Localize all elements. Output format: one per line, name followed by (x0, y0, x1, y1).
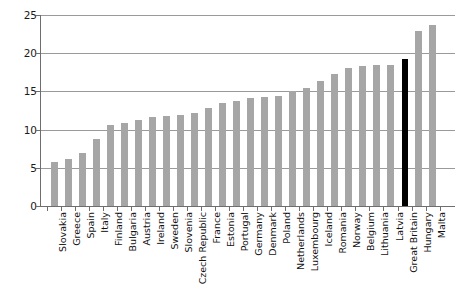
y-tick-label-15: 15 (3, 86, 37, 96)
bar-norway (345, 68, 352, 206)
x-tick-mark-22 (369, 207, 370, 211)
y-axis-ticks: 0510152025 (0, 15, 37, 206)
bar-lithuania (373, 65, 380, 206)
bar-netherlands (289, 91, 296, 206)
bar-hungary (415, 31, 422, 206)
x-label-estonia: Estonia (226, 212, 236, 247)
x-tick-mark-24 (398, 207, 399, 211)
x-label-lithuania: Lithuania (380, 212, 390, 256)
bar-luxembourg (303, 88, 310, 206)
bar-spain (79, 153, 86, 206)
x-tick-mark-1 (75, 207, 76, 211)
x-label-france: France (212, 212, 222, 244)
bar-greece (65, 159, 72, 206)
x-label-greece: Greece (72, 212, 82, 246)
x-label-denmark: Denmark (268, 212, 278, 256)
x-label-spain: Spain (86, 212, 96, 239)
x-tick-mark-25 (412, 207, 413, 211)
x-label-slovakia: Slovakia (58, 212, 68, 252)
bar-poland (275, 96, 282, 206)
x-label-portugal: Portugal (240, 212, 250, 251)
x-tick-mark-11 (215, 207, 216, 211)
x-label-czech-republic: Czech Republic (198, 212, 208, 284)
x-label-hungary: Hungary (423, 212, 433, 253)
bar-series (40, 15, 455, 206)
x-tick-mark-0 (61, 207, 62, 211)
bar-italy (93, 139, 100, 206)
x-tick-mark-14 (257, 207, 258, 211)
x-tick-mark-19 (327, 207, 328, 211)
x-label-norway: Norway (352, 212, 362, 248)
bar-denmark (261, 97, 268, 206)
bar-sweden (163, 116, 170, 206)
x-tick-mark-21 (355, 207, 356, 211)
y-tick-label-5: 5 (3, 163, 37, 173)
x-label-iceland: Iceland (324, 212, 334, 246)
x-tick-mark-6 (145, 207, 146, 211)
x-label-austria: Austria (142, 212, 152, 246)
x-label-romania: Romania (338, 212, 348, 254)
bar-romania (331, 74, 338, 206)
bar-portugal (233, 101, 240, 206)
x-label-great-britain: Great Britain (409, 212, 419, 273)
bar-estonia (219, 103, 226, 206)
x-tick-mark-7 (159, 207, 160, 211)
bar-bulgaria (121, 123, 128, 206)
x-tick-mark-9 (187, 207, 188, 211)
x-tick-mark-13 (243, 207, 244, 211)
x-label-ireland: Ireland (156, 212, 166, 245)
bar-chart: 0510152025 SlovakiaGreeceSpainItalyFinla… (0, 0, 460, 304)
x-label-poland: Poland (282, 212, 292, 244)
bar-great-britain (402, 59, 408, 206)
bar-germany (247, 98, 254, 206)
x-tick-mark-origin (47, 207, 48, 211)
bar-france (205, 108, 212, 206)
bar-ireland (149, 117, 156, 206)
x-tick-mark-17 (299, 207, 300, 211)
y-tick-label-0: 0 (3, 201, 37, 211)
x-label-malta: Malta (437, 212, 447, 238)
x-tick-mark-18 (313, 207, 314, 211)
x-tick-mark-8 (173, 207, 174, 211)
x-tick-mark-3 (103, 207, 104, 211)
x-tick-mark-27 (440, 207, 441, 211)
x-label-belgium: Belgium (366, 212, 376, 251)
x-label-netherlands: Netherlands (296, 212, 306, 270)
x-label-bulgaria: Bulgaria (128, 212, 138, 251)
x-label-slovenia: Slovenia (184, 212, 194, 252)
x-tick-mark-16 (285, 207, 286, 211)
y-tick-label-10: 10 (3, 125, 37, 135)
x-tick-mark-5 (131, 207, 132, 211)
bar-slovenia (177, 115, 184, 206)
bar-finland (107, 125, 114, 206)
bar-slovakia (51, 162, 58, 206)
bar-czech-republic (191, 113, 198, 206)
x-tick-mark-20 (341, 207, 342, 211)
x-label-luxembourg: Luxembourg (310, 212, 320, 271)
x-tick-mark-15 (271, 207, 272, 211)
x-label-sweden: Sweden (170, 212, 180, 250)
y-tick-label-25: 25 (3, 10, 37, 20)
y-tick-label-20: 20 (3, 48, 37, 58)
bar-malta (429, 25, 436, 206)
x-tick-mark-23 (383, 207, 384, 211)
x-tick-mark-10 (201, 207, 202, 211)
bar-latvia (387, 65, 394, 206)
x-label-finland: Finland (114, 212, 124, 246)
bar-belgium (359, 66, 366, 206)
bar-iceland (317, 81, 324, 206)
x-label-latvia: Latvia (395, 212, 405, 241)
x-tick-mark-4 (117, 207, 118, 211)
x-tick-mark-12 (229, 207, 230, 211)
x-label-italy: Italy (100, 212, 110, 233)
x-axis-labels: SlovakiaGreeceSpainItalyFinlandBulgariaA… (40, 212, 455, 304)
x-tick-mark-26 (426, 207, 427, 211)
x-tick-mark-2 (89, 207, 90, 211)
x-label-germany: Germany (254, 212, 264, 256)
bar-austria (135, 120, 142, 206)
